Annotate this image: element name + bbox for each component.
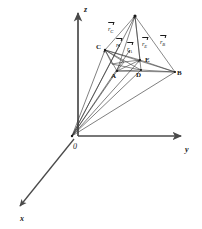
vertex-dot-B <box>174 71 176 73</box>
vertex-label-C: C <box>96 44 101 51</box>
edge-inner-6 <box>112 62 124 64</box>
vector-label-r-E: rE <box>142 41 147 48</box>
axis-label-x: x <box>20 215 24 223</box>
vector-to-D <box>72 70 141 136</box>
vector-label-r-A: rA <box>127 46 132 53</box>
vector-subscript: B <box>162 42 165 47</box>
vector-diagram-figure: z y x 0 C A D B E rC r rA rE rB <box>0 0 202 229</box>
vector-to-B <box>72 72 175 136</box>
axis-x-line <box>20 139 74 206</box>
vector-subscript: E <box>144 44 147 49</box>
diagram-canvas <box>0 0 202 229</box>
vector-r-C <box>72 50 105 136</box>
vector-label-r: r <box>116 42 119 49</box>
axis-x <box>20 139 74 206</box>
vertex-dots <box>71 14 176 137</box>
vertex-label-A: A <box>111 73 116 80</box>
edge-apex-E <box>135 16 140 60</box>
vertex-label-D: D <box>136 72 141 79</box>
vertex-dot-E <box>139 59 141 61</box>
edge-inner-4 <box>112 64 141 70</box>
vertex-label-E: E <box>145 57 150 64</box>
axis-label-z: z <box>84 6 87 14</box>
vector-subscript: C <box>110 29 113 34</box>
vertex-dot-C <box>104 49 106 51</box>
vertex-label-B: B <box>177 70 182 77</box>
vertex-dot-origin <box>71 135 73 137</box>
vector-arrow-glyph: r <box>116 42 119 49</box>
vector-subscript: A <box>129 49 132 54</box>
vertex-dot-apex <box>133 14 136 17</box>
origin-label: 0 <box>73 143 77 151</box>
vertex-dot-A <box>116 70 118 72</box>
vector-label-r-C: rC <box>108 26 114 33</box>
position-vectors <box>72 16 175 136</box>
vector-label-r-B: rB <box>160 39 165 46</box>
axis-label-y: y <box>185 146 189 154</box>
edge-apex-B <box>135 16 175 72</box>
edge-C-E <box>105 50 140 60</box>
